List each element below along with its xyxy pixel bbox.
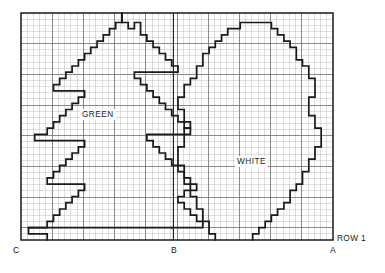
- marker-label-b: B: [171, 245, 177, 255]
- row-label: ROW 1: [337, 233, 366, 243]
- marker-label-a: A: [330, 245, 336, 255]
- chart-figure: GREEN WHITE C B A ROW 1: [0, 0, 385, 273]
- region-label-green: GREEN: [82, 110, 114, 119]
- colorwork-grid-chart: GREEN WHITE C B A ROW 1: [0, 0, 385, 273]
- marker-label-c: C: [13, 245, 20, 255]
- region-label-white: WHITE: [237, 157, 266, 166]
- page-background: [0, 0, 385, 273]
